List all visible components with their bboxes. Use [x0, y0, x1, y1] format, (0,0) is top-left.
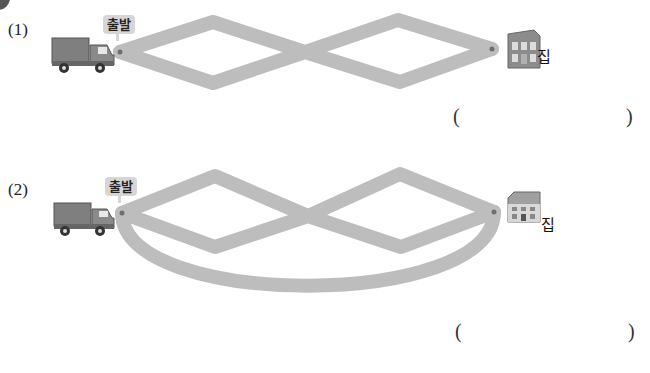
start-node [118, 50, 123, 55]
destination-label: 집 [541, 213, 555, 234]
house-icon [508, 30, 540, 68]
answer-close-paren: ) [626, 105, 633, 128]
truck-icon [52, 38, 114, 73]
answer-open-paren: ( [453, 105, 460, 128]
problem-2: (2) 출발 집 ( [0, 150, 650, 373]
start-label: 출발 [103, 15, 135, 34]
end-node [490, 47, 495, 52]
answer-input-2[interactable] [472, 321, 626, 347]
roads [122, 174, 494, 286]
road-lower [120, 49, 492, 83]
problem-1: (1) 출발 집 ( ) [0, 0, 650, 150]
house-icon [508, 192, 540, 222]
end-node [492, 210, 497, 215]
road-lower [122, 212, 494, 247]
answer-input-1[interactable] [470, 106, 624, 132]
roads [120, 20, 492, 83]
destination-label: 집 [537, 45, 551, 66]
answer-close-paren: ) [628, 320, 635, 343]
start-label: 출발 [105, 177, 137, 196]
truck-icon [54, 203, 114, 236]
start-node [120, 211, 125, 216]
answer-open-paren: ( [455, 320, 462, 343]
